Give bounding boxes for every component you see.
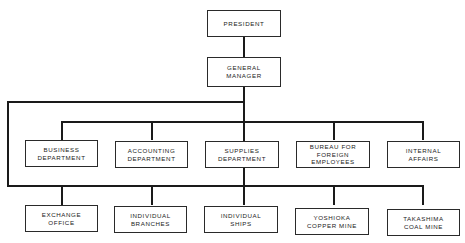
individual-branches-label: INDIVIDUAL BRANCHES bbox=[130, 212, 171, 227]
individual-ships-box: INDIVIDUAL SHIPS bbox=[204, 206, 278, 233]
connector-row2-drop-4 bbox=[333, 185, 335, 205]
internal-affairs-box: INTERNAL AFFAIRS bbox=[387, 141, 460, 168]
connector-outer-top bbox=[7, 101, 244, 103]
individual-ships-label: INDIVIDUAL SHIPS bbox=[221, 212, 262, 227]
accounting-department-label: ACCOUNTING DEPARTMENT bbox=[127, 147, 175, 162]
connector-outer-left bbox=[7, 101, 9, 186]
connector-row2-drop-5 bbox=[422, 185, 424, 205]
connector-row1-drop-4 bbox=[333, 121, 335, 140]
president-box: PRESIDENT bbox=[207, 10, 281, 37]
yoshioka-copper-mine-label: YOSHIOKA COPPER MINE bbox=[307, 214, 357, 229]
connector-row2-drop-2 bbox=[151, 185, 153, 205]
exchange-office-label: EXCHANGE OFFICE bbox=[42, 211, 82, 226]
connector-row1-drop-3 bbox=[243, 121, 245, 140]
takashima-coal-mine-label: TAKASHIMA COAL MINE bbox=[403, 215, 444, 230]
bureau-foreign-employees-box: BUREAU FOR FOREIGN EMPLOYEES bbox=[296, 141, 370, 168]
individual-branches-box: INDIVIDUAL BRANCHES bbox=[114, 206, 187, 233]
supplies-department-label: SUPPLIES DEPARTMENT bbox=[218, 147, 266, 162]
general-manager-label: GENERAL MANAGER bbox=[226, 64, 262, 79]
bureau-foreign-employees-label: BUREAU FOR FOREIGN EMPLOYEES bbox=[310, 143, 357, 166]
connector-row2-bar bbox=[7, 185, 423, 187]
internal-affairs-label: INTERNAL AFFAIRS bbox=[406, 147, 441, 162]
connector-row1-drop-1 bbox=[61, 121, 63, 140]
connector-row2-drop-3 bbox=[243, 185, 245, 205]
accounting-department-box: ACCOUNTING DEPARTMENT bbox=[115, 141, 188, 168]
takashima-coal-mine-box: TAKASHIMA COAL MINE bbox=[387, 209, 460, 236]
connector-row1-drop-5 bbox=[422, 121, 424, 140]
yoshioka-copper-mine-box: YOSHIOKA COPPER MINE bbox=[295, 208, 369, 235]
business-department-label: BUSINESS DEPARTMENT bbox=[37, 146, 85, 161]
connector-row1-drop-2 bbox=[151, 121, 153, 140]
exchange-office-box: EXCHANGE OFFICE bbox=[25, 205, 98, 232]
connector-president-gm bbox=[243, 37, 245, 57]
supplies-department-box: SUPPLIES DEPARTMENT bbox=[205, 141, 279, 168]
connector-row2-drop-1 bbox=[61, 185, 63, 205]
general-manager-box: GENERAL MANAGER bbox=[207, 57, 281, 87]
business-department-box: BUSINESS DEPARTMENT bbox=[25, 140, 98, 167]
president-label: PRESIDENT bbox=[224, 20, 265, 28]
